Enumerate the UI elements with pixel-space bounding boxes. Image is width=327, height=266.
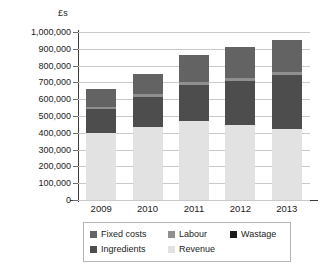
legend-item-revenue[interactable]: Revenue: [168, 245, 215, 254]
y-axis-tick-mark: [73, 200, 78, 201]
bar-segment-ingredients[interactable]: [133, 97, 163, 127]
y-axis-tick-label: 900,000: [38, 44, 71, 54]
bar-segment-labour[interactable]: [225, 78, 255, 81]
x-axis-tick-label: 2013: [262, 203, 312, 214]
bar-segment-fixed-costs[interactable]: [179, 55, 209, 83]
x-axis-tick-label: 2010: [123, 203, 173, 214]
bar-segment-fixed-costs[interactable]: [272, 40, 302, 72]
y-axis-tick-label: 200,000: [38, 161, 71, 171]
bar-segment-fixed-costs[interactable]: [133, 74, 163, 94]
bar-segment-ingredients[interactable]: [272, 75, 302, 129]
y-axis-tick-label: 0: [66, 195, 71, 205]
y-axis-tick-label: 500,000: [38, 111, 71, 121]
legend-item-wastage[interactable]: Wastage: [230, 230, 276, 239]
bar-segment-fixed-costs[interactable]: [86, 89, 116, 107]
legend-label-ingredients: Ingredients: [101, 245, 146, 254]
y-axis-tick-label: 100,000: [38, 178, 71, 188]
bar-segment-ingredients[interactable]: [179, 85, 209, 121]
y-axis-tick-label: 300,000: [38, 145, 71, 155]
legend-swatch-revenue-icon: [168, 246, 175, 253]
bar-segment-labour[interactable]: [179, 82, 209, 85]
plot-area: 0100,000200,000300,000400,000500,000600,…: [78, 32, 310, 200]
legend-swatch-ingredients-icon: [90, 246, 97, 253]
bar-segment-labour[interactable]: [272, 72, 302, 75]
legend-swatch-fixed-costs-icon: [90, 231, 97, 238]
stacked-bar-chart: £s 0100,000200,000300,000400,000500,0006…: [0, 0, 327, 266]
legend-row-1: Fixed costs Labour Wastage: [90, 227, 285, 242]
chart-legend: Fixed costs Labour Wastage Ingredients R…: [83, 222, 291, 262]
x-axis-tick-label: 2009: [76, 203, 126, 214]
legend-swatch-labour-icon: [168, 231, 175, 238]
legend-label-fixed-costs: Fixed costs: [101, 230, 147, 239]
bar-segment-labour[interactable]: [133, 94, 163, 97]
bar-segment-ingredients[interactable]: [225, 81, 255, 126]
y-axis-tick-label: 1,000,000: [31, 27, 71, 37]
y-axis-tick-label: 400,000: [38, 128, 71, 138]
legend-label-wastage: Wastage: [241, 230, 276, 239]
gridline: [78, 200, 310, 201]
y-axis-tick-label: 700,000: [38, 77, 71, 87]
bar-segment-ingredients[interactable]: [86, 109, 116, 133]
bar-segment-revenue[interactable]: [133, 127, 163, 200]
legend-label-revenue: Revenue: [179, 245, 215, 254]
y-axis-tick-label: 600,000: [38, 94, 71, 104]
legend-row-2: Ingredients Revenue: [90, 242, 285, 257]
y-axis-tick-label: 800,000: [38, 61, 71, 71]
bar-segment-revenue[interactable]: [86, 133, 116, 200]
x-axis-tick-label: 2011: [169, 203, 219, 214]
bars-layer: [78, 32, 310, 200]
legend-item-labour[interactable]: Labour: [168, 230, 230, 239]
bar-segment-fixed-costs[interactable]: [225, 47, 255, 78]
x-axis-tick-label: 2012: [215, 203, 265, 214]
y-axis-unit-label: £s: [58, 8, 68, 18]
legend-label-labour: Labour: [179, 230, 207, 239]
legend-item-ingredients[interactable]: Ingredients: [90, 245, 168, 254]
bar-segment-labour[interactable]: [86, 107, 116, 110]
legend-swatch-wastage-icon: [230, 231, 237, 238]
bar-segment-revenue[interactable]: [225, 125, 255, 200]
bar-segment-revenue[interactable]: [272, 129, 302, 200]
bar-segment-revenue[interactable]: [179, 121, 209, 200]
legend-item-fixed-costs[interactable]: Fixed costs: [90, 230, 168, 239]
